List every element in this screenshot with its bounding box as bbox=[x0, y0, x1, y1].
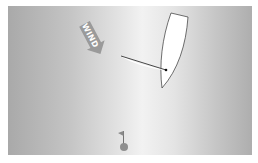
marker-buoy bbox=[118, 131, 128, 151]
buoy-icon bbox=[120, 143, 128, 151]
sailboat[interactable] bbox=[121, 13, 188, 88]
boom bbox=[121, 56, 166, 70]
wind-indicator: WIND bbox=[76, 19, 110, 59]
boat-hull bbox=[161, 13, 188, 88]
flag-icon bbox=[118, 131, 124, 136]
scene-layer: WIND bbox=[0, 0, 258, 163]
mast-icon bbox=[165, 69, 168, 72]
